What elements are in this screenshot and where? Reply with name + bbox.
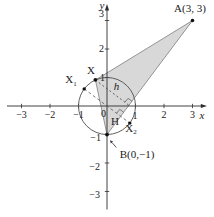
point-x1-dot [83,87,86,90]
y-axis-arrow-icon [105,4,109,10]
point-x2-label: X2 [125,122,137,137]
geometry-figure-canvas: y x −3 −2 −1 0 1 2 3 3 2 1 −1 −2 −3 A(3,… [0,0,214,217]
y-tick-label-minus2: −2 [89,161,100,172]
x-tick-label-minus1: −1 [73,109,84,120]
y-tick-label-1: 1 [100,72,105,83]
x-tick-label-1: 1 [133,110,138,121]
point-a-label: A(3, 3) [174,2,206,15]
point-x1-base: X [65,73,73,85]
b-label-arrow [112,143,116,148]
x-axis-label: x [199,109,205,121]
point-x1-subscript: 1 [73,80,77,88]
x-tick-label-minus2: −2 [45,109,56,120]
x-tick-label-3: 3 [190,109,195,120]
y-tick-label-minus1: −1 [90,132,101,143]
point-b-dot [105,133,109,137]
y-tick-label-3: 3 [99,8,104,19]
x-tick-label-minus3: −3 [16,109,27,120]
point-h-label: H [111,115,119,127]
point-x2-base: X [125,122,133,134]
point-x1-label: X1 [65,73,77,88]
x-tick-label-0: 0 [101,108,106,119]
x-tick-label-2: 2 [162,109,167,120]
point-x2-subscript: 2 [133,128,137,136]
y-tick-label-minus3: −3 [89,189,100,200]
height-label: h [114,80,120,92]
x-axis-arrow-icon [201,104,207,108]
geometry-figure: y x −3 −2 −1 0 1 2 3 3 2 1 −1 −2 −3 A(3,… [0,0,214,217]
point-b-label: B(0,−1) [120,148,155,161]
point-x-label: X [87,64,95,76]
y-tick-label-2: 2 [99,43,104,54]
point-x-dot [94,78,98,82]
point-a-dot [191,19,195,23]
